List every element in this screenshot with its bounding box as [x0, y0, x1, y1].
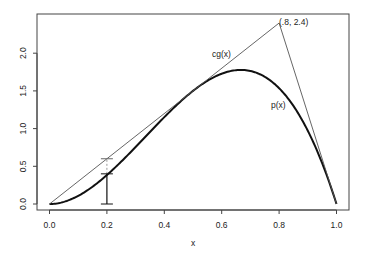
y-tick-label: 1.5: [18, 85, 28, 97]
envelope-curve: [50, 23, 337, 204]
x-axis: 0.00.20.40.60.81.0: [44, 210, 343, 230]
p-label: p(x): [271, 100, 286, 110]
x-tick-label: 0.2: [101, 220, 113, 230]
y-tick-label: 2.0: [18, 47, 28, 59]
x-tick-label: 1.0: [331, 220, 343, 230]
y-tick-label: 0.0: [18, 198, 28, 210]
series-layer: [50, 23, 337, 204]
x-tick-label: 0.0: [44, 220, 56, 230]
density-curve: [50, 70, 337, 204]
x-tick-label: 0.8: [273, 220, 285, 230]
error-bar: [101, 159, 113, 204]
cg-label: cg(x): [212, 49, 231, 59]
chart: 0.00.20.40.60.81.0 0.00.51.01.52.0 (.8, …: [0, 0, 368, 260]
x-axis-label: x: [191, 238, 196, 248]
x-tick-label: 0.6: [216, 220, 228, 230]
plot-frame: [37, 14, 349, 210]
x-tick-label: 0.4: [158, 220, 170, 230]
peak-annotation: (.8, 2.4): [279, 17, 308, 27]
y-axis: 0.00.51.01.52.0: [18, 47, 37, 210]
y-tick-label: 0.5: [18, 160, 28, 172]
y-tick-label: 1.0: [18, 122, 28, 134]
